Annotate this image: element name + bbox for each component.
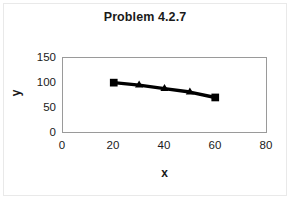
x-tick-label-60: 60 — [195, 140, 235, 151]
data-marker-square-1 — [110, 79, 118, 87]
x-tick-label-80: 80 — [246, 140, 286, 151]
y-tick-label-50: 50 — [22, 102, 56, 113]
chart-title: Problem 4.2.7 — [0, 10, 290, 24]
y-tick-label-0: 0 — [22, 127, 56, 138]
chart-screenshot: Problem 4.2.7 150 100 50 0 y 0 20 40 60 … — [0, 0, 290, 199]
y-axis-title: y — [9, 73, 23, 113]
x-axis-title: x — [62, 166, 267, 180]
y-tick-label-100: 100 — [22, 77, 56, 88]
x-tick-label-20: 20 — [93, 140, 133, 151]
x-tick-label-0: 0 — [42, 140, 82, 151]
data-marker-square-2 — [211, 94, 219, 102]
y-tick-label-150: 150 — [22, 52, 56, 63]
plot-area — [62, 57, 267, 133]
data-series-canvas — [63, 58, 266, 132]
x-tick-label-40: 40 — [144, 140, 184, 151]
